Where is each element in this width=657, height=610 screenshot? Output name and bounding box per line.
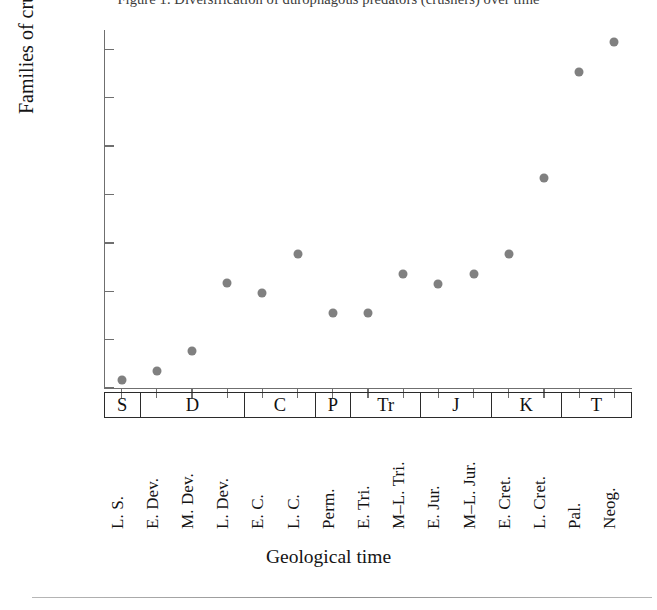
y-axis-tick: [105, 145, 114, 146]
y-axis-tick: [105, 339, 114, 340]
stage-label: E. C.: [248, 494, 268, 529]
data-point: [399, 269, 408, 278]
data-point: [469, 269, 478, 278]
data-point: [293, 249, 302, 258]
period-cell-c: C: [245, 393, 315, 417]
period-cell-d: D: [141, 393, 246, 417]
figure-panel: Figure 1. Diversification of durophagous…: [0, 0, 657, 610]
figure-caption: Figure 1. Diversification of durophagous…: [0, 0, 657, 8]
y-axis-line: [104, 30, 105, 389]
stage-label: Neog.: [600, 487, 620, 529]
data-point: [610, 37, 619, 46]
y-axis-tick: [105, 49, 114, 50]
stage-label: M–L. Jur.: [460, 462, 480, 530]
stage-label: Pal.: [565, 503, 585, 529]
data-point: [434, 279, 443, 288]
stage-label: Perm.: [319, 488, 339, 529]
period-cell-j: J: [421, 393, 491, 417]
data-point: [575, 67, 584, 76]
x-axis-stage-labels: L. S.E. Dev.M. Dev.L. Dev.E. C.L. C.Perm…: [104, 424, 632, 529]
data-point: [117, 376, 126, 385]
y-axis-title: Families of crushers: [15, 0, 38, 114]
y-axis-title-wrap: Families of crushers: [18, 36, 48, 376]
period-cell-tr: Tr: [351, 393, 421, 417]
period-cell-p: P: [316, 393, 352, 417]
x-axis-title: Geological time: [0, 546, 657, 568]
period-cell-s: S: [105, 393, 141, 417]
stage-label: M–L. Tri.: [389, 461, 409, 529]
footer-divider: [32, 597, 652, 598]
data-point: [540, 174, 549, 183]
stage-label: E. Jur.: [424, 485, 444, 529]
data-point: [504, 250, 513, 259]
y-axis-tick: [105, 97, 114, 98]
stage-label: L. Cret.: [530, 476, 550, 529]
data-point: [152, 366, 161, 375]
y-axis-tick: [105, 291, 114, 292]
stage-label: E. Dev.: [143, 478, 163, 529]
stage-label: M. Dev.: [178, 473, 198, 529]
period-cell-t: T: [562, 393, 631, 417]
stage-label: L. C.: [284, 494, 304, 529]
plot-area: 05101520253035: [104, 30, 632, 390]
stage-label: L. Dev.: [213, 478, 233, 529]
y-axis-tick: [105, 387, 114, 388]
stage-label: L. S.: [108, 496, 128, 529]
data-point: [188, 347, 197, 356]
y-axis-tick: [105, 194, 114, 195]
data-point: [364, 308, 373, 317]
period-cell-k: K: [492, 393, 562, 417]
geological-period-band: SDCPTrJKT: [104, 392, 632, 418]
data-point: [258, 289, 267, 298]
y-axis-tick: [105, 242, 114, 243]
stage-label: E. Tri.: [354, 485, 374, 529]
stage-label: E. Cret.: [495, 476, 515, 529]
data-point: [223, 278, 232, 287]
data-point: [328, 308, 337, 317]
